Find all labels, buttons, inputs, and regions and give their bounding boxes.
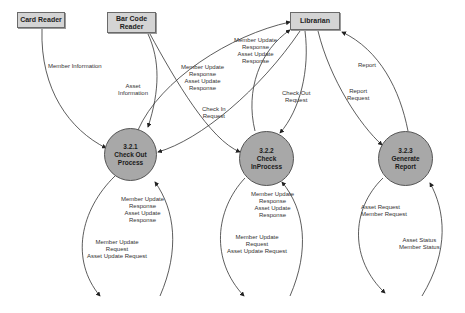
label-check-out-request: Check Out Request xyxy=(282,90,310,104)
label-asset-information: Asset Information xyxy=(118,83,148,97)
label-gr-loop-out: Asset Request Member Request xyxy=(361,204,407,218)
flow-member-information xyxy=(42,29,106,148)
label-report: Report xyxy=(358,62,376,69)
label-check-in-request: Check In Request xyxy=(202,106,226,120)
process-name: Check Out Process xyxy=(114,151,147,167)
process-generate-report: 3.2.3 Generate Report xyxy=(378,131,433,186)
label-gr-loop-in: Asset Status Member Status xyxy=(399,237,440,251)
flow-report xyxy=(342,32,408,131)
process-check-in: 3.2.2 Check InProcess xyxy=(239,131,294,186)
process-id: 3.2.3 xyxy=(398,147,412,155)
label-report-request: Report Request xyxy=(347,88,369,102)
label-co-to-librarian: Member Update Response Asset Update Resp… xyxy=(181,64,224,92)
label-ci-to-librarian: Member Update Response Asset Update Resp… xyxy=(234,37,277,65)
label-co-loop-in: Member Update Response Asset Update Resp… xyxy=(121,196,164,224)
label-co-loop-out: Member Update Request Asset Update Reque… xyxy=(87,239,147,260)
flow-co-loop-out xyxy=(82,176,115,296)
entity-librarian: Librarian xyxy=(290,12,340,30)
process-name: Check InProcess xyxy=(251,155,282,171)
flow-gr-loop-out xyxy=(358,178,385,293)
flow-check-out-request xyxy=(280,31,306,133)
process-id: 3.2.1 xyxy=(123,143,137,151)
process-check-out: 3.2.1 Check Out Process xyxy=(104,128,157,181)
flow-asset-information-to-checkout xyxy=(148,34,157,127)
label-member-information: Member Information xyxy=(48,63,102,70)
label-ci-loop-out: Member Update Request Asset Update Reque… xyxy=(227,234,287,255)
process-name: Generate Report xyxy=(391,155,419,171)
entity-bar-code-reader: Bar Code Reader xyxy=(107,12,156,33)
process-id: 3.2.2 xyxy=(259,147,273,155)
label-ci-loop-in: Member Update Response Asset Update Resp… xyxy=(251,191,294,219)
entity-card-reader: Card Reader xyxy=(17,12,65,28)
